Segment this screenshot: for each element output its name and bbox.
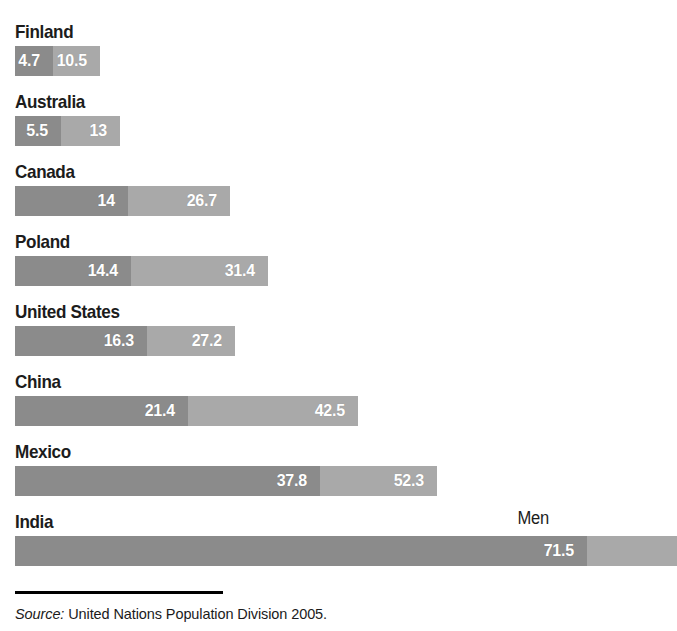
bar-segment-men: 31.4 xyxy=(131,256,268,286)
bar-track: 4.7 10.5 xyxy=(15,46,100,76)
bar-segment-men: 42.5 xyxy=(188,396,358,426)
bar-value-women: 4.7 xyxy=(18,52,53,70)
category-label: India xyxy=(15,512,53,532)
bar-segment-women: 14.4 xyxy=(15,256,131,286)
bar-value-men: 52.3 xyxy=(394,472,437,490)
bar-track: 21.4 42.5 xyxy=(15,396,358,426)
horizontal-rule xyxy=(15,591,223,594)
bar-value-women: 14.4 xyxy=(88,262,131,280)
bar-value-men: 27.2 xyxy=(192,332,235,350)
source-label: Source: xyxy=(15,606,64,622)
bar-value-men: 13 xyxy=(90,122,120,140)
bar-value-women: 5.5 xyxy=(26,122,61,140)
bar-segment-women: 4.7 xyxy=(15,46,53,76)
bar-track: 5.5 13 xyxy=(15,116,120,146)
bar-segment-women: 14 xyxy=(15,186,128,216)
bar-value-women: 21.4 xyxy=(145,402,188,420)
bar-segment-men: 13 xyxy=(61,116,120,146)
bar-segment-women: 37.8 xyxy=(15,466,320,496)
bar-track: 37.8 52.3 xyxy=(15,466,437,496)
category-label: United States xyxy=(15,302,120,322)
bar-value-men: 31.4 xyxy=(225,262,268,280)
bar-segment-men: 26.7 xyxy=(128,186,230,216)
bar-segment-women: 71.5 xyxy=(15,536,587,566)
source-note: Source: United Nations Population Divisi… xyxy=(15,606,327,622)
category-label: Finland xyxy=(15,22,73,42)
bar-value-men: 26.7 xyxy=(187,192,230,210)
bar-segment-women: 5.5 xyxy=(15,116,61,146)
bar-track: 16.3 27.2 xyxy=(15,326,235,356)
bar-value-women: 14 xyxy=(98,192,128,210)
source-text: United Nations Population Division 2005. xyxy=(68,606,327,622)
bar-value-men: 10.5 xyxy=(57,52,100,70)
legend-label-men: Men xyxy=(517,508,549,529)
bar-segment-men xyxy=(587,536,677,566)
bar-track: 71.5 xyxy=(15,536,677,566)
bar-segment-men: 10.5 xyxy=(53,46,100,76)
bar-track: 14 26.7 xyxy=(15,186,230,216)
bar-segment-men: 27.2 xyxy=(147,326,235,356)
bar-segment-women: 21.4 xyxy=(15,396,188,426)
category-label: Canada xyxy=(15,162,75,182)
bar-track: 14.4 31.4 xyxy=(15,256,268,286)
category-label: Poland xyxy=(15,232,70,252)
bar-segment-women: 16.3 xyxy=(15,326,147,356)
category-label: Mexico xyxy=(15,442,71,462)
bar-segment-men: 52.3 xyxy=(320,466,437,496)
bar-value-women: 37.8 xyxy=(277,472,320,490)
bar-value-men: 42.5 xyxy=(315,402,358,420)
category-label: China xyxy=(15,372,61,392)
bar-value-women: 71.5 xyxy=(544,542,587,560)
bar-value-women: 16.3 xyxy=(104,332,147,350)
category-label: Australia xyxy=(15,92,85,112)
